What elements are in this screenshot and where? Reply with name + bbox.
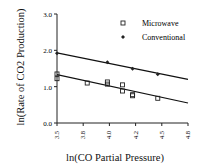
x-tick-label: 3.8	[79, 131, 86, 139]
y-tick-label: 1.0	[43, 84, 52, 92]
legend-label: Microwave	[142, 19, 179, 28]
data-point-square	[131, 94, 135, 98]
fit-line	[57, 53, 188, 80]
chart: 0.01.02.03.03.53.84.04.24.54.8MicrowaveC…	[0, 0, 203, 167]
x-tick-label: 4.5	[158, 131, 165, 139]
x-tick-label: 4.8	[184, 131, 191, 139]
x-tick-label: 4.2	[132, 131, 139, 139]
legend-marker-diamond	[121, 35, 125, 39]
legend-marker-square	[121, 21, 125, 25]
y-axis-label: ln(Rate of CO2 Production)	[15, 0, 29, 137]
data-point-square	[121, 83, 125, 87]
x-tick-label: 4.0	[105, 131, 112, 139]
x-axis-label: ln(CO Partial Pressure)	[40, 152, 190, 163]
data-point-diamond	[55, 51, 59, 55]
x-tick-label: 3.5	[53, 131, 60, 139]
legend-label: Conventional	[142, 33, 186, 42]
data-point-square	[131, 93, 135, 97]
y-tick-label: 2.0	[43, 47, 52, 55]
y-tick-label: 0.0	[43, 120, 52, 128]
y-tick-label: 3.0	[43, 11, 52, 19]
